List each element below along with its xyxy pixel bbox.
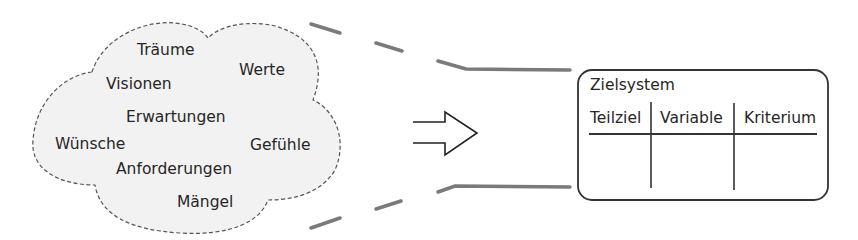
- cloud-word-wuensche: Wünsche: [55, 137, 125, 153]
- cloud-word-traeume: Träume: [137, 43, 195, 59]
- zielsystem-title: Zielsystem: [590, 78, 675, 94]
- cloud-word-werte: Werte: [239, 63, 285, 79]
- upper-connector: [311, 24, 570, 70]
- column-header-variable: Variable: [660, 111, 723, 127]
- double-line-right-arrow-icon: [413, 112, 477, 155]
- cloud-word-gefuehle: Gefühle: [250, 138, 311, 154]
- cloud-word-anforderungen: Anforderungen: [116, 162, 232, 178]
- cloud-word-maengel: Mängel: [177, 195, 233, 211]
- cloud-word-erwartungen: Erwartungen: [126, 110, 226, 126]
- column-header-teilziel: Teilziel: [590, 111, 641, 127]
- column-header-kriterium: Kriterium: [744, 111, 816, 127]
- cloud-word-visionen: Visionen: [106, 77, 172, 93]
- lower-connector: [311, 186, 570, 228]
